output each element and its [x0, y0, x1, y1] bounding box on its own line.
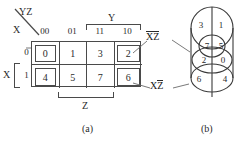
venn-region-7: 7 — [202, 41, 212, 51]
kmap-row-header-1: 1 — [22, 71, 31, 80]
kmap-cell-2[interactable]: 2 — [115, 42, 143, 65]
kmap-col-header-11: 11 — [86, 27, 114, 36]
kmap-cell-1[interactable]: 1 — [60, 42, 88, 65]
kmap-cell-6[interactable]: 6 — [115, 65, 143, 88]
z-variable-brace — [58, 92, 114, 98]
venn-region-3: 3 — [196, 20, 206, 30]
kmap-cell-4-value: 4 — [32, 71, 59, 82]
annotation-not-x-not-z: XZ — [146, 31, 159, 43]
venn-diagram-panel: 3 1 7 5 2 0 6 4 — [181, 2, 243, 102]
x-variable-brace — [14, 63, 20, 88]
annotation-x-not-z-second: Z — [157, 80, 163, 92]
kmap-cell-4[interactable]: 4 — [32, 65, 60, 88]
annotation-x-not-z-first: X — [150, 80, 157, 91]
kmap-cell-6-value: 6 — [115, 71, 143, 82]
venn-region-1: 1 — [216, 20, 226, 30]
venn-region-5: 5 — [216, 41, 226, 51]
kmap-cell-3-value: 3 — [87, 48, 114, 59]
kmap-cell-3[interactable]: 3 — [87, 42, 115, 65]
venn-region-4: 4 — [220, 74, 230, 84]
annotation-not-x-not-z-second: Z — [153, 31, 159, 43]
kmap-cell-2-value: 2 — [115, 48, 143, 59]
z-variable-label: Z — [82, 101, 88, 111]
kmap-col-header-10: 10 — [114, 27, 142, 36]
kmap-cell-0[interactable]: 0 — [32, 42, 60, 65]
annotation-not-x-not-z-first: X — [146, 31, 153, 43]
kmap-col-header-01: 01 — [59, 27, 87, 36]
annotation-x-not-z: XZ — [150, 80, 163, 92]
caption-b: (b) — [201, 124, 213, 134]
y-variable-label: Y — [108, 13, 115, 23]
kmap-cell-5-value: 5 — [60, 71, 87, 82]
venn-region-2: 2 — [199, 55, 209, 65]
kmap-corner-x-label: X — [13, 25, 20, 35]
kmap-cell-1-value: 1 — [60, 48, 87, 59]
venn-region-6: 6 — [194, 74, 204, 84]
kmap-row-header-0: 0 — [22, 48, 31, 57]
kmap-grid: 0 1 3 2 4 5 7 6 — [31, 41, 141, 87]
caption-a: (a) — [82, 124, 93, 134]
kmap-cell-5[interactable]: 5 — [60, 65, 88, 88]
venn-region-0: 0 — [218, 55, 228, 65]
kmap-corner-yz-label: YZ — [19, 7, 32, 17]
kmap-cell-0-value: 0 — [32, 48, 59, 59]
x-variable-label: X — [3, 70, 10, 80]
kmap-col-header-00: 00 — [31, 27, 59, 36]
figure-karnaugh-map-and-venn-diagram: YZ X Y X Z 00 01 11 10 0 1 0 1 3 2 4 5 7… — [0, 0, 244, 154]
kmap-cell-7[interactable]: 7 — [87, 65, 115, 88]
venn-diagram-shapes — [181, 2, 243, 102]
kmap-cell-7-value: 7 — [87, 71, 114, 82]
